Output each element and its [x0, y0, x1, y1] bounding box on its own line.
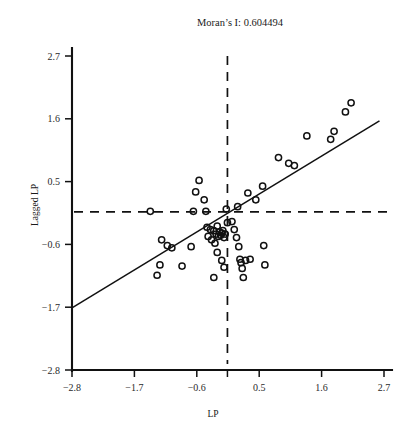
scatter-point	[261, 242, 267, 248]
scatter-point	[331, 128, 337, 134]
scatter-point	[147, 208, 153, 214]
y-tick-label: 2.7	[48, 51, 61, 62]
scatter-point	[233, 234, 239, 240]
scatter-point	[328, 136, 334, 142]
scatter-point	[304, 133, 310, 139]
scatter-point	[179, 263, 185, 269]
plot-canvas: Moran’s I: 0.604494 −2.8−1.7−0.60.51.62.…	[0, 0, 415, 442]
x-tick-label: −0.6	[188, 382, 206, 393]
y-axis-tick-labels: −2.8−1.7−0.60.51.62.7	[42, 51, 60, 376]
scatter-point	[262, 262, 268, 268]
scatter-point	[188, 244, 194, 250]
scatter-point	[245, 190, 251, 196]
y-axis-title: Lagged LP	[30, 184, 40, 226]
scatter-point	[154, 272, 160, 278]
y-tick-label: −1.7	[42, 302, 60, 313]
axes	[72, 48, 392, 371]
scatter-point	[221, 264, 227, 270]
scatter-point	[231, 226, 237, 232]
scatter-point	[348, 100, 354, 106]
x-tick-label: 2.7	[378, 382, 391, 393]
scatter-point	[236, 244, 242, 250]
y-tick-label: −0.6	[42, 239, 60, 250]
scatter-point	[193, 189, 199, 195]
x-axis-title: LP	[207, 409, 218, 419]
scatter-point	[196, 177, 202, 183]
scatter-point	[219, 257, 225, 263]
x-tick-label: 0.5	[253, 382, 266, 393]
scatter-point	[214, 249, 220, 255]
y-tick-label: −2.8	[42, 365, 60, 376]
scatter-point	[157, 262, 163, 268]
regression-fit-line	[72, 121, 379, 308]
scatter-points	[147, 100, 354, 281]
x-tick-label: −1.7	[125, 382, 143, 393]
scatter-point	[211, 274, 217, 280]
moran-scatterplot-figure: Moran’s I: 0.604494 −2.8−1.7−0.60.51.62.…	[0, 0, 415, 442]
x-axis-tick-labels: −2.8−1.7−0.60.51.62.7	[63, 382, 390, 393]
x-tick-label: 1.6	[315, 382, 328, 393]
y-tick-label: 0.5	[48, 176, 61, 187]
chart-title: Moran’s I: 0.604494	[197, 17, 284, 28]
scatter-point	[342, 109, 348, 115]
y-tick-label: 1.6	[48, 113, 61, 124]
x-tick-label: −2.8	[63, 382, 81, 393]
scatter-point	[291, 163, 297, 169]
scatter-point	[240, 274, 246, 280]
scatter-point	[201, 197, 207, 203]
scatter-point	[253, 197, 259, 203]
scatter-point	[159, 237, 165, 243]
scatter-point	[275, 155, 281, 161]
scatter-point	[260, 183, 266, 189]
